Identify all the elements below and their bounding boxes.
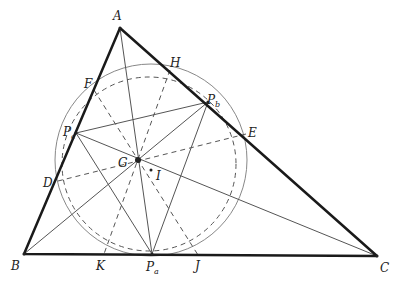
label-h: H <box>169 56 181 70</box>
dashed-lines <box>58 70 246 255</box>
label-f: F <box>83 77 93 91</box>
outer-circle <box>55 64 247 256</box>
label-pa: Pa <box>145 260 159 276</box>
label-g: G <box>118 156 128 170</box>
label-c: C <box>380 261 389 275</box>
label-e: E <box>247 126 257 140</box>
label-k: K <box>95 259 106 273</box>
label-b: B <box>10 259 20 273</box>
label-d: D <box>42 176 53 190</box>
point-g <box>135 157 141 163</box>
geometry-diagram: A B C H F E D G I K J Pb Pc Pa <box>0 0 401 289</box>
label-pb: Pb <box>206 93 220 109</box>
label-j: J <box>192 259 201 273</box>
label-a: A <box>112 9 122 23</box>
label-i: I <box>155 169 161 183</box>
point-i <box>150 169 153 172</box>
label-pc: Pc <box>62 125 76 141</box>
